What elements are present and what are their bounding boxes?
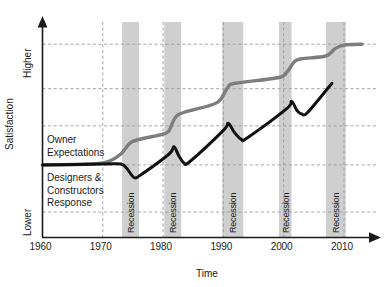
y-axis-lower-label: Lower bbox=[22, 209, 33, 236]
owner-expectations-annotation: Owner Expectations bbox=[47, 134, 104, 159]
x-axis-arrow bbox=[369, 232, 381, 243]
satisfaction-time-chart: Satisfaction Higher Lower Time Owner Exp… bbox=[0, 0, 392, 287]
recession-label: Recession bbox=[126, 193, 136, 233]
recession-label: Recession bbox=[281, 193, 291, 233]
recession-label: Recession bbox=[331, 193, 341, 233]
y-axis-higher-label: Higher bbox=[22, 49, 33, 78]
designers-constructors-annotation: Designers & Constructors Response bbox=[47, 172, 104, 210]
x-axis-tick-label: 1970 bbox=[90, 241, 112, 252]
x-axis-tick-label: 1980 bbox=[150, 241, 172, 252]
x-axis-tick-label: 1990 bbox=[210, 241, 232, 252]
x-axis-title: Time bbox=[196, 268, 218, 279]
y-axis-title: Satisfaction bbox=[4, 98, 15, 150]
recession-label: Recession bbox=[168, 193, 178, 233]
recession-label: Recession bbox=[228, 193, 238, 233]
x-axis-tick-label: 2010 bbox=[331, 241, 353, 252]
x-axis-tick-label: 1960 bbox=[30, 241, 52, 252]
x-axis-tick-label: 2000 bbox=[271, 241, 293, 252]
y-axis-arrow bbox=[38, 16, 48, 28]
